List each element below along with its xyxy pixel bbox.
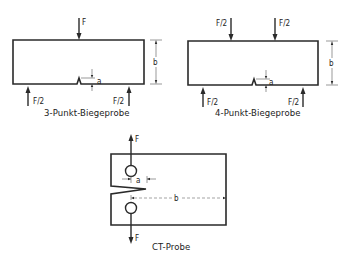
specimen-caption: 4-Punkt-Biegeprobe	[215, 108, 301, 118]
dim-label-a: a	[269, 78, 273, 87]
specimen-caption: 3-Punkt-Biegeprobe	[44, 108, 130, 118]
arrow-down-icon	[229, 34, 234, 41]
specimen-body	[111, 154, 226, 225]
specimen-body	[188, 41, 318, 85]
fracture-specimens-diagram: F F/2 F/2 a b 3-Punkt-Biegeprobe F/2	[0, 0, 354, 258]
dim-label-a: a	[136, 176, 140, 185]
arrow-up-icon	[301, 87, 306, 94]
arrow-down-icon	[91, 75, 93, 78]
pin-hole-top	[126, 166, 137, 177]
dim-label-b: b	[174, 194, 179, 203]
arrow-down-icon	[273, 34, 278, 41]
arrow-right-icon	[128, 178, 131, 180]
support-label-left: F/2	[207, 98, 218, 107]
support-label-right: F/2	[113, 97, 124, 106]
support-label-left: F/2	[33, 97, 44, 106]
compact-tension-specimen: F F a b CT-Probe	[111, 134, 226, 252]
load-label-left: F/2	[216, 19, 227, 28]
dim-label-a: a	[97, 77, 101, 86]
load-label-right: F/2	[279, 19, 290, 28]
pin-hole-bottom	[126, 203, 137, 214]
four-point-bend-specimen: F/2 F/2 F/2 F/2 a b 4-Punkt-Biegeprobe	[188, 18, 338, 118]
arrow-up-icon	[201, 87, 206, 94]
dim-label-b: b	[329, 59, 334, 68]
support-label-right: F/2	[288, 98, 299, 107]
arrow-down-icon	[331, 81, 333, 85]
arrow-down-icon	[155, 80, 157, 84]
arrow-left-icon	[147, 178, 150, 180]
arrow-down-icon	[129, 237, 134, 244]
dim-label-b: b	[153, 58, 158, 67]
specimen-body	[13, 40, 144, 84]
three-point-bend-specimen: F F/2 F/2 a b 3-Punkt-Biegeprobe	[13, 18, 162, 118]
arrow-up-icon	[155, 40, 157, 44]
arrow-down-icon	[77, 33, 82, 40]
arrow-up-icon	[26, 86, 31, 93]
arrow-up-icon	[129, 134, 134, 141]
load-label-bottom: F	[135, 234, 139, 243]
arrow-left-icon	[131, 197, 134, 199]
arrow-up-icon	[127, 86, 132, 93]
load-label: F	[82, 18, 86, 27]
specimen-caption: CT-Probe	[152, 242, 190, 252]
arrow-up-icon	[331, 41, 333, 45]
arrow-down-icon	[265, 76, 267, 79]
load-label-top: F	[135, 135, 139, 144]
